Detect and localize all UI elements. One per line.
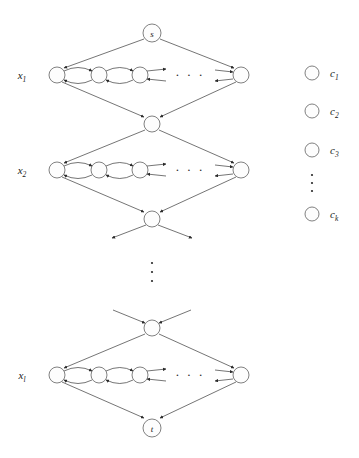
- clause-node-circle: [305, 143, 319, 157]
- chain-terminal-node: [233, 162, 249, 178]
- clause-node-circle: [305, 66, 319, 80]
- variable-row-1-subscript: 1: [23, 75, 27, 84]
- chain-node: [49, 367, 65, 383]
- chain-node: [91, 67, 107, 83]
- diamond-row-l: [62, 334, 236, 418]
- chain-node: [49, 162, 65, 178]
- graph-diagram: s x1 · · ·: [0, 0, 359, 458]
- source-node-label: s: [150, 29, 154, 39]
- junction-node-3: [113, 310, 191, 336]
- svg-text:· · ·: · · ·: [175, 67, 205, 82]
- clause-node-item: c2: [305, 104, 339, 120]
- horizontal-ellipsis: · · ·: [175, 367, 205, 382]
- clause-node-column: c1 c2 c3 ck: [305, 66, 339, 223]
- chain-node: [132, 162, 148, 178]
- variable-row-l-subscript: l: [23, 375, 25, 384]
- variable-chain-row-1: · · ·: [49, 67, 249, 84]
- clause-node-circle: [305, 104, 319, 118]
- source-node: s: [143, 24, 161, 42]
- chain-terminal-node: [233, 67, 249, 83]
- variable-row-2-subscript: 2: [23, 170, 27, 179]
- svg-text:· · ·: · · ·: [175, 367, 205, 382]
- svg-text:· · ·: · · ·: [175, 162, 205, 177]
- chain-node: [49, 67, 65, 83]
- clause-node-item: c1: [305, 66, 339, 82]
- diamond-row-1: [62, 39, 236, 117]
- chain-node: [132, 67, 148, 83]
- diamond-row-2: [62, 130, 236, 212]
- clause-node-item: ck: [305, 207, 339, 223]
- junction-node-2: [112, 211, 192, 238]
- horizontal-ellipsis: · · ·: [175, 67, 205, 82]
- variable-chain-row-2: · · ·: [49, 162, 249, 179]
- clause-node-label: c2: [330, 105, 339, 120]
- clause-node-label: c1: [330, 67, 339, 82]
- vertical-ellipsis: [151, 262, 153, 282]
- clause-node-label: ck: [330, 208, 339, 223]
- clause-node-item: c3: [305, 143, 339, 159]
- chain-node: [91, 367, 107, 383]
- variable-chain-row-l: · · ·: [49, 367, 249, 384]
- sink-node: t: [143, 419, 161, 437]
- variable-row-2-label: x2: [17, 164, 27, 179]
- variable-row-l-label: xl: [18, 369, 26, 384]
- junction-node-1: [144, 116, 160, 132]
- clause-node-circle: [305, 207, 319, 221]
- chain-node: [91, 162, 107, 178]
- clause-node-label: c3: [330, 144, 339, 159]
- variable-row-1-label: x1: [17, 69, 27, 84]
- horizontal-ellipsis: · · ·: [175, 162, 205, 177]
- chain-terminal-node: [233, 367, 249, 383]
- chain-node: [132, 367, 148, 383]
- clause-column-vertical-ellipsis: [311, 174, 313, 192]
